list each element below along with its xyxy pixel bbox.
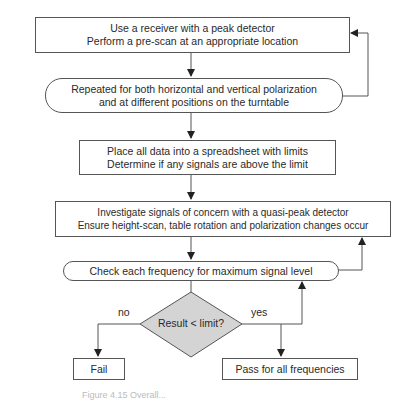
node-pass: Pass for all frequencies — [222, 358, 358, 380]
node-fail: Fail — [73, 358, 125, 380]
loop-check-to-investigate — [338, 238, 362, 270]
node-check: Check each frequency for maximum signal … — [63, 261, 339, 281]
node-spreadsheet: Place all data into a spreadsheet with l… — [79, 140, 336, 175]
node-spreadsheet-line1: Place all data into a spreadsheet with l… — [107, 145, 308, 158]
node-investigate-line1: Investigate signals of concern with a qu… — [97, 206, 348, 219]
node-repeat-line1: Repeated for both horizontal and vertica… — [71, 83, 317, 96]
node-investigate: Investigate signals of concern with a qu… — [55, 201, 391, 237]
node-check-line1: Check each frequency for maximum signal … — [90, 265, 313, 278]
node-prescan: Use a receiver with a peak detector Perf… — [35, 17, 350, 53]
node-fail-label: Fail — [91, 363, 108, 376]
arrow-no-to-fail — [98, 324, 140, 356]
node-pass-label: Pass for all frequencies — [235, 363, 344, 376]
figure-caption: Figure 4.15 Overall... — [82, 390, 166, 400]
decision-label: Result < limit? — [150, 317, 232, 329]
node-prescan-line2: Perform a pre-scan at an appropriate loc… — [87, 35, 298, 48]
node-repeat: Repeated for both horizontal and vertica… — [45, 78, 343, 113]
edge-label-yes: yes — [251, 306, 267, 318]
node-investigate-line2: Ensure height-scan, table rotation and p… — [78, 219, 369, 232]
edge-label-no: no — [118, 306, 130, 318]
node-repeat-line2: and at different positions on the turnta… — [99, 96, 289, 109]
node-prescan-line1: Use a receiver with a peak detector — [110, 22, 275, 35]
node-spreadsheet-line2: Determine if any signals are above the l… — [107, 158, 308, 171]
